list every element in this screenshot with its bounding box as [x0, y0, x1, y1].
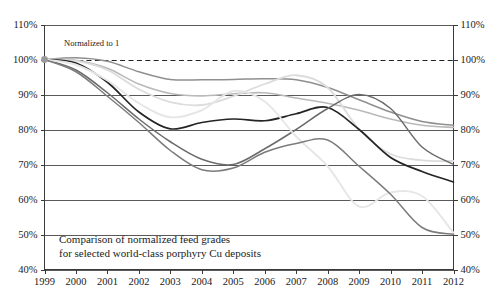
x-label-2002: 2002	[128, 276, 149, 287]
y-label-left-70: 70%	[18, 159, 38, 170]
y-label-right-40: 40%	[461, 264, 481, 275]
data-series	[45, 58, 454, 235]
y-label-left-110: 110%	[13, 19, 37, 30]
y-label-left-90: 90%	[18, 89, 38, 100]
origin-dot-marker	[41, 56, 48, 63]
y-label-right-100: 100%	[461, 54, 486, 65]
normalized-annotation: Normalized to 1	[64, 38, 119, 48]
y-label-left-80: 80%	[18, 124, 38, 135]
y-label-right-110: 110%	[461, 19, 485, 30]
x-label-2003: 2003	[160, 276, 181, 287]
y-label-right-80: 80%	[461, 124, 481, 135]
x-label-2004: 2004	[191, 276, 213, 287]
caption-line-2: for selected world-class porphyry Cu dep…	[59, 247, 261, 259]
series-line-deposit-g-mid-gray	[45, 60, 454, 235]
series-line-deposit-f-very-light	[45, 60, 454, 233]
x-label-2011: 2011	[412, 276, 433, 287]
x-label-2001: 2001	[97, 276, 118, 287]
x-label-2008: 2008	[317, 276, 338, 287]
y-label-right-90: 90%	[461, 89, 481, 100]
y-label-left-40: 40%	[18, 264, 38, 275]
y-axis-left-tick-labels: 110%100%90%80%70%60%50%40%	[13, 19, 38, 275]
feed-grade-line-chart: 110%100%90%80%70%60%50%40% 110%100%90%80…	[0, 0, 497, 305]
x-label-2007: 2007	[286, 276, 307, 287]
x-label-2006: 2006	[254, 276, 275, 287]
y-label-left-60: 60%	[18, 194, 38, 205]
x-label-2010: 2010	[380, 276, 401, 287]
x-label-2000: 2000	[65, 276, 86, 287]
y-label-left-50: 50%	[18, 229, 38, 240]
y-label-left-100: 100%	[13, 54, 38, 65]
y-axis-right-tick-labels: 110%100%90%80%70%60%50%40%	[461, 19, 486, 275]
x-label-1999: 1999	[34, 276, 55, 287]
x-label-2012: 2012	[443, 276, 464, 287]
series-line-deposit-d-black	[45, 60, 454, 183]
normalized-origin-marker	[41, 56, 48, 63]
y-label-right-70: 70%	[461, 159, 481, 170]
y-label-right-50: 50%	[461, 229, 481, 240]
caption-line-1: Comparison of normalized feed grades	[59, 233, 230, 245]
x-label-2005: 2005	[223, 276, 244, 287]
y-label-right-60: 60%	[461, 194, 481, 205]
chart-container: 110%100%90%80%70%60%50%40% 110%100%90%80…	[0, 0, 497, 305]
x-label-2009: 2009	[349, 276, 370, 287]
x-axis-tick-labels: 1999200020012002200320042005200620072008…	[34, 276, 464, 287]
